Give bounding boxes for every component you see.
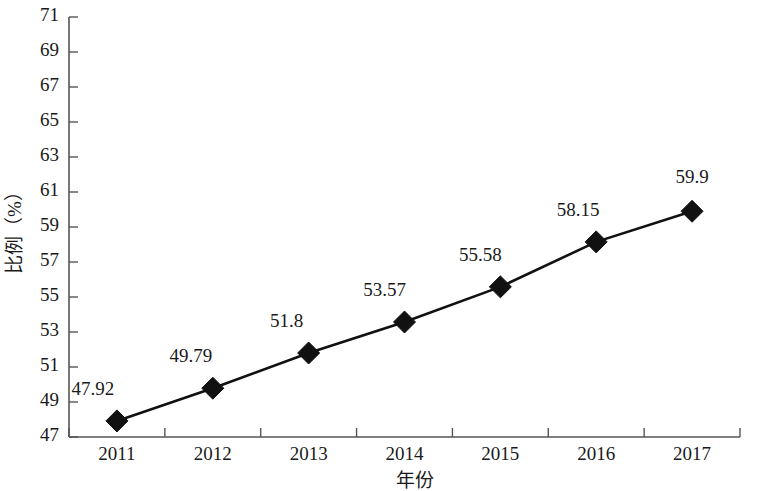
- x-axis-tick-labels: 2011201220132014201520162017: [98, 443, 711, 464]
- x-tick-label-2011: 2011: [98, 443, 135, 464]
- y-axis-ticks: [69, 17, 78, 437]
- point-label-2011: 47.92: [72, 378, 115, 399]
- data-point-2013: [298, 342, 320, 364]
- y-tick-label-67: 67: [40, 74, 59, 95]
- y-tick-label-71: 71: [40, 4, 59, 25]
- x-tick-label-2014: 2014: [386, 443, 425, 464]
- data-point-2015: [489, 276, 511, 298]
- x-tick-label-2017: 2017: [673, 443, 711, 464]
- y-tick-label-59: 59: [40, 214, 59, 235]
- y-tick-label-55: 55: [40, 284, 59, 305]
- y-tick-label-61: 61: [40, 179, 59, 200]
- y-tick-label-49: 49: [40, 389, 59, 410]
- point-label-2015: 55.58: [459, 244, 502, 265]
- x-axis-ticks: [69, 428, 740, 437]
- point-label-2013: 51.8: [270, 310, 303, 331]
- chart-figure: 47495153555759616365676971 2011201220132…: [0, 0, 784, 491]
- data-point-2016: [585, 231, 607, 253]
- series-point-labels: 47.9249.7951.853.5755.5858.1559.9: [72, 166, 709, 399]
- data-point-2011: [106, 410, 128, 432]
- x-axis-title: 年份: [396, 470, 434, 491]
- y-tick-label-63: 63: [40, 144, 59, 165]
- x-tick-label-2016: 2016: [577, 443, 615, 464]
- y-tick-label-65: 65: [40, 109, 59, 130]
- y-tick-label-47: 47: [40, 424, 59, 445]
- point-label-2012: 49.79: [169, 345, 212, 366]
- y-tick-label-69: 69: [40, 39, 59, 60]
- x-tick-label-2013: 2013: [290, 443, 328, 464]
- x-tick-label-2012: 2012: [194, 443, 232, 464]
- y-tick-label-51: 51: [40, 354, 59, 375]
- y-tick-label-57: 57: [40, 249, 59, 270]
- data-point-2017: [681, 200, 703, 222]
- x-tick-label-2015: 2015: [481, 443, 519, 464]
- y-tick-label-53: 53: [40, 319, 59, 340]
- point-label-2016: 58.15: [557, 199, 600, 220]
- y-axis-tick-labels: 47495153555759616365676971: [40, 4, 59, 445]
- data-point-2012: [202, 377, 224, 399]
- line-chart: 47495153555759616365676971 2011201220132…: [0, 0, 784, 491]
- data-point-2014: [394, 311, 416, 333]
- y-axis-title: 比例（%）: [4, 182, 25, 274]
- point-label-2014: 53.57: [363, 279, 406, 300]
- point-label-2017: 59.9: [675, 166, 708, 187]
